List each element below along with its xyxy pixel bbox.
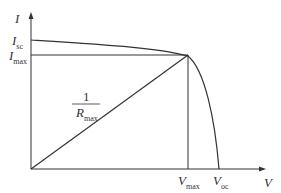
y-axis-arrow-icon [29, 12, 34, 19]
iv-curve [31, 40, 219, 169]
x-axis-label: V [264, 176, 272, 189]
iv-chart: I V Isc Imax Vmax Voc 1 Rmax [0, 0, 281, 193]
fraction-numerator: 1 [83, 90, 90, 103]
vmax-label: Vmax [178, 174, 200, 191]
load-line [31, 55, 188, 169]
imax-label: Imax [9, 49, 27, 66]
voc-label: Voc [213, 174, 229, 191]
y-axis-label: I [15, 12, 19, 25]
fraction-denominator: Rmax [76, 106, 98, 123]
x-axis-arrow-icon [259, 167, 266, 172]
chart-plot [0, 0, 281, 193]
